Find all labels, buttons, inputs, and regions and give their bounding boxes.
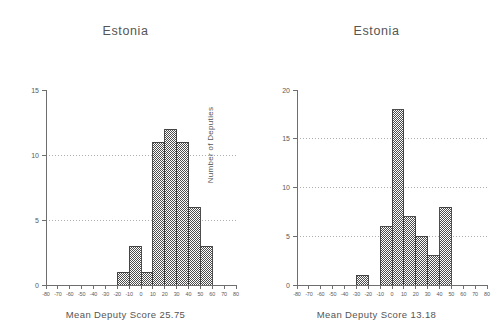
histogram-bar: [141, 272, 153, 285]
x-tick-label: -70: [54, 291, 62, 297]
y-tick-label: 10: [31, 152, 39, 159]
y-tick-label: 5: [35, 217, 39, 224]
histogram-bar: [189, 207, 201, 285]
chart-caption-right: Mean Deputy Score 13.18: [251, 309, 502, 320]
y-tick-label: 10: [282, 184, 290, 191]
x-tick-label: -80: [42, 291, 50, 297]
x-tick-label: -30: [102, 291, 110, 297]
chart-panel-right: Estonia Number of Deputies 05101520-80-7…: [251, 0, 502, 336]
x-tick-label: 30: [425, 291, 431, 297]
x-tick-label: -10: [376, 291, 384, 297]
plot-area-right: 05101520-80-70-60-50-40-30-20-1001020304…: [251, 0, 502, 336]
x-tick-label: -40: [341, 291, 349, 297]
y-tick-label: 5: [286, 233, 290, 240]
chart-caption-left: Mean Deputy Score 25.75: [0, 309, 251, 320]
x-tick-label: -20: [365, 291, 373, 297]
x-tick-label: 60: [460, 291, 466, 297]
y-tick-label: 15: [31, 87, 39, 94]
x-tick-label: 10: [401, 291, 407, 297]
histogram-bar: [392, 110, 404, 286]
x-tick-label: -70: [305, 291, 313, 297]
y-axis-label-right: Number of Deputies: [206, 90, 215, 200]
x-tick-label: -30: [353, 291, 361, 297]
x-tick-label: -60: [66, 291, 74, 297]
x-tick-label: 80: [484, 291, 490, 297]
x-tick-label: -10: [125, 291, 133, 297]
x-tick-label: 80: [233, 291, 239, 297]
histogram-bar: [200, 246, 212, 285]
x-tick-label: -80: [293, 291, 301, 297]
x-tick-label: 10: [150, 291, 156, 297]
histogram-bar: [428, 256, 440, 285]
y-tick-label: 0: [286, 282, 290, 289]
x-tick-label: 40: [186, 291, 192, 297]
x-tick-label: 40: [437, 291, 443, 297]
histogram-bar: [404, 217, 416, 285]
y-tick-label: 0: [35, 282, 39, 289]
x-tick-label: 0: [140, 291, 143, 297]
x-tick-label: -50: [78, 291, 86, 297]
histogram-bar: [356, 275, 368, 285]
x-tick-label: 0: [391, 291, 394, 297]
histogram-bar: [416, 236, 428, 285]
x-tick-label: 20: [162, 291, 168, 297]
y-tick-label: 20: [282, 87, 290, 94]
y-tick-label: 15: [282, 135, 290, 142]
x-tick-label: 50: [197, 291, 203, 297]
x-tick-label: -20: [114, 291, 122, 297]
histogram-bar: [440, 207, 452, 285]
x-tick-label: 50: [448, 291, 454, 297]
x-tick-label: -50: [329, 291, 337, 297]
x-tick-label: 20: [413, 291, 419, 297]
histogram-bar: [117, 272, 129, 285]
x-tick-label: 70: [221, 291, 227, 297]
x-tick-label: -40: [90, 291, 98, 297]
histogram-bar: [153, 142, 165, 285]
histogram-figure: Estonia Number of Deputies 051015-80-70-…: [0, 0, 502, 336]
x-tick-label: 70: [472, 291, 478, 297]
x-tick-label: 30: [174, 291, 180, 297]
histogram-bar: [129, 246, 141, 285]
histogram-bar: [165, 129, 177, 285]
histogram-bar: [380, 227, 392, 286]
histogram-bar: [177, 142, 189, 285]
x-tick-label: 60: [209, 291, 215, 297]
x-tick-label: -60: [317, 291, 325, 297]
